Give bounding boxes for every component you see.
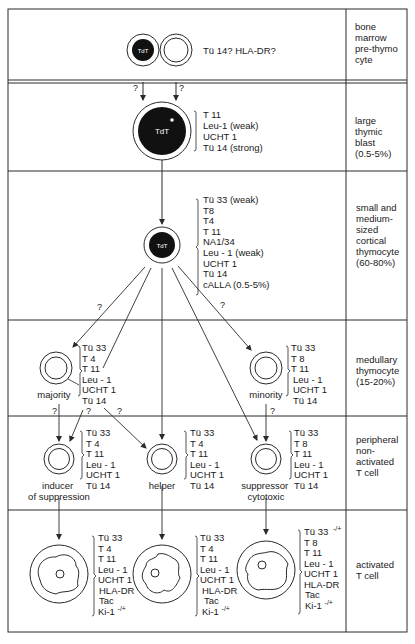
bracket	[195, 536, 199, 616]
marker-list: Tü 33 T 4 T 11 Leu - 1 UCHT 1 Tü 14	[190, 427, 227, 491]
stage-label-bone-marrow: bone marrow pre-thymo cyte	[355, 21, 400, 65]
question-mark: ?	[220, 300, 225, 310]
helper-group: helper Tü 33 T 4 T 11 Leu - 1 UCHT 1 Tü …	[147, 427, 227, 491]
prethymocyte-markers: Tü 14? HLA-DR?	[203, 45, 276, 56]
large-blast-group: TdT T 11 Leu-1 (weak) UCHT 1 Tü 14 (stro…	[133, 102, 263, 160]
arrows-row1	[143, 82, 176, 100]
cortical-branch-arrows	[73, 266, 257, 440]
majority-group: majority Tü 33 T 4 T 11 Leu - 1 UCHT 1 T…	[37, 342, 122, 416]
stage-label-activated: activated T cell	[356, 559, 397, 581]
stage-label-peripheral: peripheral non- activated T cell	[356, 434, 401, 478]
question-mark: ?	[270, 406, 275, 416]
bracket	[286, 346, 290, 396]
suppressor-group: suppressor cytotoxic Tü 33 T 8 T 11 Leu …	[241, 427, 331, 502]
cortical-group: TdT Tü 33 (weak) T8 T4 T 11 NA1/34 Leu -…	[97, 194, 270, 312]
question-mark: ?	[86, 406, 91, 416]
marker-list: Tü 33 T 4 T 11 Leu - 1 UCHT 1 Tü 14	[82, 342, 119, 406]
marker-list: Tü 33 T 8 T 11 Leu - 1 UCHT 1 Tü 14	[291, 342, 330, 406]
activated-suppressor-group: Tü 33 -/+ T 8 T 11 Leu - 1 UCHT 1 HLA-DR…	[237, 522, 344, 614]
bracket	[80, 431, 84, 479]
stage-label-large-blast: large thymic blast (0.5-5%)	[355, 115, 391, 159]
activated-helper-group: Tü 33 T 4 T 11 Leu - 1 UCHT 1 HLA-DR Tac…	[133, 532, 240, 617]
marker-list: Tü 33 T 4 T 11 Leu - 1 UCHT 1 HLA-DR Tac…	[98, 532, 137, 617]
majority-label: majority	[37, 389, 71, 400]
nucleolus	[56, 570, 64, 578]
question-mark: ?	[97, 302, 102, 312]
minority-label: minority	[249, 389, 283, 400]
prethymocyte-group: TdT Tü 14? HLA-DR? ? ?	[127, 34, 276, 93]
tdt-label: TdT	[155, 127, 169, 136]
bracket	[194, 111, 196, 151]
marker-list: Tü 33 (weak) T8 T4 T 11 NA1/34 Leu - 1 (…	[203, 194, 270, 290]
tdt-label: TdT	[138, 48, 149, 54]
bracket	[196, 199, 198, 295]
marker-list: T 11 Leu-1 (weak) UCHT 1 Tü 14 (strong)	[203, 109, 263, 153]
stage-label-cortical: small and medium- sized cortical thymocy…	[356, 202, 402, 268]
question-mark: ?	[179, 83, 184, 93]
arrow-to-suppressor	[172, 268, 257, 440]
minority-group: minority Tü 33 T 8 T 11 Leu - 1 UCHT 1 T…	[249, 342, 329, 416]
tdt-label: TdT	[157, 243, 168, 249]
activated-inducer-group: Tü 33 T 4 T 11 Leu - 1 UCHT 1 HLA-DR Tac…	[30, 532, 137, 617]
inducer-group: inducer of suppression Tü 33 T 4 T 11 Le…	[28, 427, 123, 502]
nucleolus	[151, 569, 159, 577]
peripheral-to-activated-arrows	[59, 486, 266, 539]
bracket	[289, 431, 293, 479]
marker-list: Tü 33 T 4 T 11 Leu - 1 UCHT 1 HLA-DR Tac…	[200, 532, 240, 617]
t-cell-differentiation-diagram: bone marrow pre-thymo cyte large thymic …	[0, 0, 415, 644]
question-mark: ?	[133, 83, 138, 93]
stage-label-medullary: medullary thymocyte (15-20%)	[356, 354, 402, 387]
marker-list: Tü 33 T 8 T 11 Leu - 1 UCHT 1 Tü 14	[294, 427, 331, 491]
nucleolus	[170, 118, 174, 122]
question-mark: ?	[52, 406, 57, 416]
bracket	[92, 536, 96, 616]
nucleolus	[258, 561, 266, 569]
marker-list: Tü 33 -/+ T 8 T 11 Leu - 1 UCHT 1 HLA-DR…	[304, 522, 344, 611]
question-mark: ?	[117, 406, 122, 416]
line-to-majority-markers	[103, 268, 151, 368]
bracket	[184, 431, 188, 479]
stage-labels: bone marrow pre-thymo cyte large thymic …	[355, 21, 402, 581]
arrow-to-majority	[73, 267, 145, 347]
bracket	[298, 530, 302, 614]
marker-list: Tü 33 T 4 T 11 Leu - 1 UCHT 1 Tü 14	[86, 427, 123, 491]
